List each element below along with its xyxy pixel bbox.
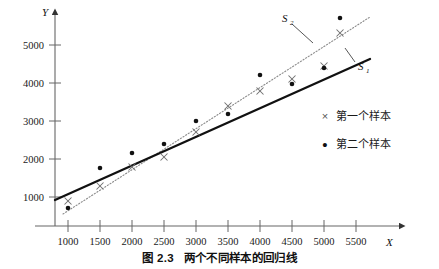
y-tick-label-2000: 2000	[23, 154, 44, 165]
dot-marker	[130, 151, 135, 156]
caption-number: 图 2.3	[142, 252, 174, 264]
cross-marker	[337, 30, 344, 37]
legend-label-sample2: 第二个样本	[336, 139, 391, 150]
s2-label-base: S	[282, 12, 288, 24]
regression-line-s1	[55, 59, 370, 200]
dot-marker-icon: •	[318, 140, 332, 149]
dot-marker	[226, 112, 231, 117]
x-tick-label-1500: 1500	[90, 236, 111, 247]
cross-marker	[65, 198, 72, 205]
y-tick-label-4000: 4000	[23, 78, 44, 89]
line-label-s2: S 2	[282, 12, 294, 27]
dot-marker	[338, 16, 343, 21]
s1-label-base: S	[358, 60, 364, 72]
s1-leader-line	[345, 48, 355, 62]
x-tick-group: 1000 1500 2000 2500 3000 3500 4000 4500 …	[58, 220, 367, 247]
cross-marker	[257, 88, 264, 95]
s2-label-sub: 2	[290, 19, 294, 27]
x-axis-title: X	[385, 236, 394, 248]
y-tick-label-3000: 3000	[23, 116, 44, 127]
caption-text: 两个不同样本的回归线	[184, 252, 297, 264]
x-tick-label-2000: 2000	[122, 236, 143, 247]
x-tick-label-5000: 5000	[314, 236, 335, 247]
cross-marker	[161, 154, 168, 161]
x-tick-label-2500: 2500	[154, 236, 175, 247]
cross-marker	[289, 76, 296, 83]
x-tick-label-4500: 4500	[282, 236, 303, 247]
cross-marker-icon: ×	[318, 110, 332, 122]
regression-scatter-chart: 5000 4000 3000 2000 1000 1000 1500 2000 …	[0, 0, 439, 269]
cross-marker	[97, 183, 104, 190]
dot-marker	[162, 142, 167, 147]
legend-item-sample2: • 第二个样本	[318, 139, 391, 150]
legend-item-sample1: × 第一个样本	[318, 110, 391, 122]
dot-marker	[322, 66, 327, 71]
legend-label-sample1: 第一个样本	[336, 111, 391, 122]
figure-container: 5000 4000 3000 2000 1000 1000 1500 2000 …	[0, 0, 439, 269]
y-axis-title: Y	[42, 6, 50, 18]
dot-marker	[290, 82, 295, 87]
y-tick-label-5000: 5000	[23, 40, 44, 51]
dot-marker	[98, 166, 103, 171]
x-tick-label-4000: 4000	[250, 236, 271, 247]
series-sample2-markers	[66, 16, 343, 211]
s2-leader-line	[292, 24, 313, 43]
x-tick-label-3000: 3000	[186, 236, 207, 247]
dot-marker	[66, 206, 71, 211]
s1-label-sub: 1	[366, 67, 370, 75]
x-tick-label-5500: 5500	[346, 236, 367, 247]
dot-marker	[258, 73, 263, 78]
dot-marker	[194, 119, 199, 124]
figure-caption: 图 2.3两个不同样本的回归线	[0, 249, 439, 265]
x-tick-label-1000: 1000	[58, 236, 79, 247]
x-tick-label-3500: 3500	[218, 236, 239, 247]
cross-marker	[193, 129, 200, 136]
y-tick-label-1000: 1000	[23, 192, 44, 203]
